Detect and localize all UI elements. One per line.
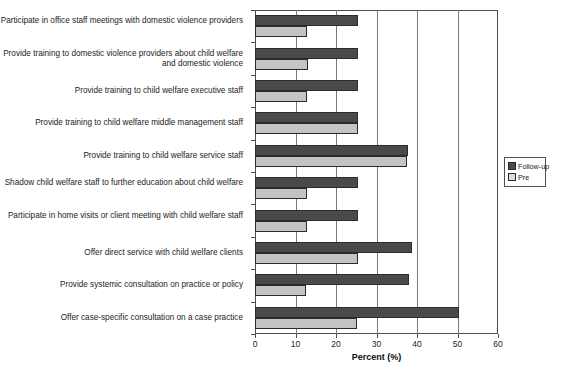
- y-tick-mark-8: [251, 269, 255, 270]
- y-tick-mark-0: [251, 10, 255, 11]
- legend-label-followup: Follow-up: [518, 162, 549, 171]
- bar-group: [255, 274, 498, 296]
- x-tick-label-30: 30: [362, 339, 392, 349]
- bar-group: [255, 177, 498, 199]
- y-tick-mark-1: [251, 42, 255, 43]
- bar-follow-up: [255, 48, 358, 59]
- category-label: Shadow child welfare staff to further ed…: [0, 178, 249, 188]
- category-label: Provide training to domestic violence pr…: [0, 49, 249, 69]
- horizontal-bar-chart: Participate in office staff meetings wit…: [0, 0, 569, 371]
- bar-follow-up: [255, 242, 412, 253]
- bars-layer: [255, 10, 498, 334]
- bar-pre: [255, 188, 307, 199]
- legend-swatch-followup: [508, 162, 516, 170]
- bar-follow-up: [255, 210, 358, 221]
- x-tick-label-10: 10: [281, 339, 311, 349]
- bar-group: [255, 210, 498, 232]
- bar-follow-up: [255, 274, 409, 285]
- bar-group: [255, 307, 498, 329]
- bar-pre: [255, 91, 307, 102]
- category-axis-labels: Participate in office staff meetings wit…: [0, 10, 249, 334]
- y-tick-mark-6: [251, 204, 255, 205]
- bar-follow-up: [255, 80, 358, 91]
- chart-legend: Follow-up Pre: [504, 157, 546, 187]
- y-tick-mark-9: [251, 302, 255, 303]
- y-tick-mark-3: [251, 107, 255, 108]
- bar-pre: [255, 156, 407, 167]
- x-tick-label-20: 20: [321, 339, 351, 349]
- x-tick-label-40: 40: [402, 339, 432, 349]
- x-tick-mark-30: [377, 334, 378, 338]
- x-tick-mark-20: [336, 334, 337, 338]
- bar-pre: [255, 26, 307, 37]
- legend-label-pre: Pre: [518, 173, 529, 182]
- bar-group: [255, 242, 498, 264]
- bar-follow-up: [255, 145, 408, 156]
- bar-pre: [255, 123, 358, 134]
- x-tick-label-60: 60: [483, 339, 513, 349]
- x-tick-mark-60: [498, 334, 499, 338]
- category-label: Provide training to child welfare execut…: [0, 86, 249, 96]
- bar-pre: [255, 59, 308, 70]
- category-label: Provide training to child welfare middle…: [0, 118, 249, 128]
- bar-follow-up: [255, 15, 358, 26]
- bar-group: [255, 15, 498, 37]
- bar-follow-up: [255, 112, 358, 123]
- y-tick-mark-2: [251, 75, 255, 76]
- category-label: Offer direct service with child welfare …: [0, 248, 249, 258]
- x-tick-label-50: 50: [443, 339, 473, 349]
- x-tick-mark-50: [458, 334, 459, 338]
- bar-group: [255, 48, 498, 70]
- category-label: Participate in home visits or client mee…: [0, 211, 249, 221]
- x-tick-mark-0: [255, 334, 256, 338]
- bar-pre: [255, 318, 357, 329]
- legend-item-followup: Follow-up: [508, 161, 542, 171]
- bar-follow-up: [255, 307, 459, 318]
- legend-swatch-pre: [508, 173, 516, 181]
- category-label: Provide training to child welfare servic…: [0, 151, 249, 161]
- bar-pre: [255, 253, 358, 264]
- bar-group: [255, 112, 498, 134]
- category-label: Offer case-specific consultation on a ca…: [0, 313, 249, 323]
- bar-pre: [255, 221, 307, 232]
- category-label: Participate in office staff meetings wit…: [0, 16, 249, 26]
- x-tick-mark-40: [417, 334, 418, 338]
- bar-pre: [255, 285, 306, 296]
- legend-item-pre: Pre: [508, 172, 542, 182]
- y-tick-mark-5: [251, 172, 255, 173]
- x-tick-label-0: 0: [240, 339, 270, 349]
- x-tick-mark-10: [296, 334, 297, 338]
- bar-follow-up: [255, 177, 358, 188]
- bar-group: [255, 145, 498, 167]
- category-label: Provide systemic consultation on practic…: [0, 280, 249, 290]
- y-tick-mark-4: [251, 140, 255, 141]
- y-tick-mark-7: [251, 237, 255, 238]
- bar-group: [255, 80, 498, 102]
- x-axis-title: Percent (%): [255, 352, 498, 362]
